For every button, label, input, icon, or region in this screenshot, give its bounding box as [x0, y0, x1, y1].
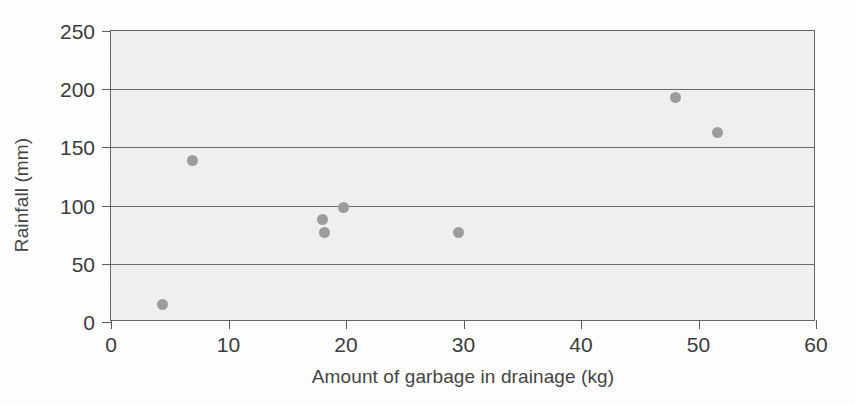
x-axis-title: Amount of garbage in drainage (kg): [110, 366, 816, 388]
data-point: [712, 127, 723, 138]
y-tick-label-0: 0: [83, 311, 95, 335]
x-tick-label-10: 10: [217, 333, 240, 357]
x-tick-label-20: 20: [334, 333, 357, 357]
y-tick-0: 0: [102, 322, 111, 323]
y-tick-label-50: 50: [72, 253, 95, 277]
y-tick-150: 150: [102, 147, 111, 148]
plot-area: 050100150200250 0102030405060: [110, 30, 815, 321]
gridline-y-100: [111, 206, 814, 207]
data-point: [319, 227, 330, 238]
x-tick-label-40: 40: [569, 333, 592, 357]
x-tick-10: [229, 320, 230, 329]
x-tick-20: [346, 320, 347, 329]
y-tick-label-100: 100: [60, 195, 95, 219]
gridline-y-50: [111, 264, 814, 265]
scatter-chart-figure: Rainfall (mm) 050100150200250 0102030405…: [0, 0, 855, 407]
x-tick-0: [111, 320, 112, 329]
y-tick-100: 100: [102, 206, 111, 207]
x-tick-label-30: 30: [452, 333, 475, 357]
data-point: [157, 299, 168, 310]
gridline-y-150: [111, 147, 814, 148]
y-tick-250: 250: [102, 31, 111, 32]
x-tick-60: [816, 320, 817, 329]
x-tick-50: [699, 320, 700, 329]
x-tick-label-60: 60: [804, 333, 827, 357]
x-tick-label-0: 0: [105, 333, 117, 357]
data-point: [317, 214, 328, 225]
y-tick-label-200: 200: [60, 78, 95, 102]
x-tick-30: [464, 320, 465, 329]
data-point: [187, 155, 198, 166]
y-tick-200: 200: [102, 89, 111, 90]
y-tick-label-150: 150: [60, 136, 95, 160]
data-point: [453, 227, 464, 238]
x-tick-label-50: 50: [687, 333, 710, 357]
gridline-y-200: [111, 89, 814, 90]
data-point: [338, 202, 349, 213]
x-tick-40: [581, 320, 582, 329]
y-axis-title: Rainfall (mm): [7, 40, 37, 350]
y-tick-label-250: 250: [60, 20, 95, 44]
data-point: [670, 92, 681, 103]
y-tick-50: 50: [102, 264, 111, 265]
